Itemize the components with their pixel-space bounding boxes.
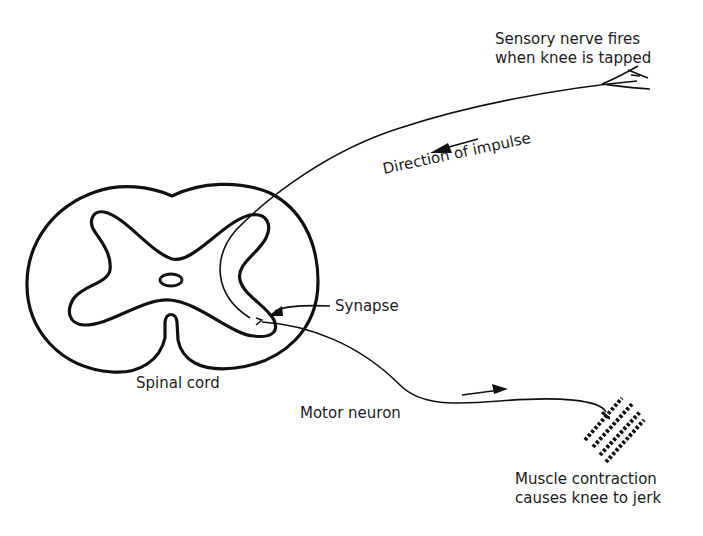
- synapse-pointer: [268, 306, 330, 316]
- motor-neuron-label: Motor neuron: [300, 404, 401, 422]
- spinal-cord-outline: [27, 184, 318, 372]
- sensory-receptor-icon: [602, 66, 650, 89]
- muscle-label-line1: Muscle contraction: [515, 470, 657, 488]
- motor-direction-arrow-icon: [462, 384, 508, 395]
- central-canal: [160, 274, 182, 286]
- synapse-label: Synapse: [335, 297, 399, 315]
- motor-neuron: [262, 322, 606, 412]
- spinal-cord-label: Spinal cord: [136, 374, 220, 392]
- muscle-label-line2: causes knee to jerk: [515, 489, 661, 507]
- reflex-arc-diagram: [0, 0, 703, 536]
- sensory-label-line1: Sensory nerve fires: [495, 30, 640, 48]
- muscle-icon: [585, 398, 644, 462]
- sensory-label-line2: when knee is tapped: [495, 49, 651, 67]
- synapse-terminal-icon: [256, 318, 262, 325]
